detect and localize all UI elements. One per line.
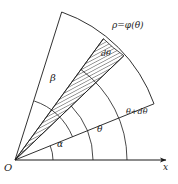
- alpha-label: α: [57, 140, 63, 149]
- beta-label: β: [50, 73, 56, 83]
- polar-area-figure: ρ=φ(θ) dθ β θ+dθ θ α O x: [0, 0, 178, 184]
- x-axis-label: x: [163, 163, 168, 172]
- d-theta-label: dθ: [101, 50, 111, 58]
- theta-plus-dtheta-label: θ+dθ: [126, 108, 147, 116]
- figure-canvas: [0, 0, 178, 184]
- curve-label: ρ=φ(θ): [112, 21, 144, 30]
- origin-label: O: [4, 163, 12, 173]
- angle-arc-alpha: [50, 146, 53, 160]
- theta-label: θ: [97, 125, 102, 134]
